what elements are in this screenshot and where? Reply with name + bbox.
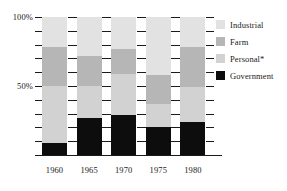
bar-segment-government (77, 118, 102, 155)
legend-item-industrial[interactable]: Industrial (216, 16, 287, 33)
legend-swatch-icon (216, 71, 225, 80)
y-tick (35, 17, 42, 18)
chart-legend: IndustrialFarmPersonal*Government (216, 16, 287, 84)
bar-1970 (111, 17, 136, 155)
bar-segment-industrial (42, 17, 67, 47)
bar-segment-government (146, 127, 171, 155)
bar-segment-farm (77, 56, 102, 86)
y-axis-ticks (35, 0, 42, 191)
legend-label: Industrial (230, 20, 264, 30)
bar-segment-farm (180, 47, 205, 87)
y-axis-label-100: 100% (13, 13, 33, 22)
y-tick (35, 100, 42, 101)
y-axis-label-50: 50% (17, 82, 33, 91)
bar-segment-farm (111, 49, 136, 74)
y-tick (35, 141, 42, 142)
bar-segment-industrial (146, 17, 171, 75)
bar-1975 (146, 17, 171, 155)
legend-item-personal[interactable]: Personal* (216, 50, 287, 67)
bar-segment-industrial (111, 17, 136, 49)
bar-segment-personal (146, 104, 171, 127)
legend-swatch-icon (216, 54, 225, 63)
y-tick (35, 58, 42, 59)
bar-segment-personal (180, 87, 205, 122)
bar-1960 (42, 17, 67, 155)
y-tick (35, 31, 42, 32)
bar-segment-personal (111, 74, 136, 115)
bar-segment-personal (42, 86, 67, 143)
legend-label: Personal* (230, 54, 264, 64)
y-tick (35, 127, 42, 128)
bar-segment-industrial (77, 17, 102, 56)
bar-1980 (180, 17, 205, 155)
y-tick (35, 45, 42, 46)
stacked-bar-chart: 100% 50% 19601965197019751980 Industrial… (0, 0, 287, 191)
legend-label: Government (230, 71, 274, 81)
bar-segment-industrial (180, 17, 205, 47)
x-axis-baseline (35, 155, 222, 156)
bar-segment-farm (42, 47, 67, 86)
legend-label: Farm (230, 37, 248, 47)
x-axis-labels: 19601965197019751980 (42, 165, 216, 179)
plot-area (42, 17, 216, 155)
bar-segment-personal (77, 86, 102, 118)
bar-segment-government (42, 143, 67, 155)
bar-segment-government (180, 122, 205, 155)
bar-1965 (77, 17, 102, 155)
y-axis-labels: 100% 50% (0, 0, 33, 191)
y-tick (35, 86, 42, 87)
y-tick (35, 72, 42, 73)
legend-swatch-icon (216, 37, 225, 46)
x-axis-label-1980: 1980 (173, 165, 213, 175)
legend-item-government[interactable]: Government (216, 67, 287, 84)
legend-item-farm[interactable]: Farm (216, 33, 287, 50)
bar-segment-government (111, 115, 136, 155)
legend-swatch-icon (216, 20, 225, 29)
bar-segment-farm (146, 75, 171, 104)
y-tick (35, 114, 42, 115)
